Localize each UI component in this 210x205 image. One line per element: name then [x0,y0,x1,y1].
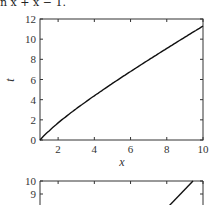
y-axis-ticks: 024681012 [25,13,203,146]
y-tick-label: 12 [25,13,36,25]
y-tick-label: 8 [31,53,37,65]
x-axis-label: x [118,155,125,169]
x-tick-label: 6 [128,143,134,155]
y-tick-label: 2 [31,114,37,126]
x-tick-label: 2 [55,143,61,155]
y-tick-label: 9 [31,188,37,200]
data-line [40,26,203,140]
top-chart: 246810 024681012 x t [3,13,209,169]
x-tick-label: 4 [92,143,98,155]
x-axis-ticks: 246810 [55,19,209,155]
y-tick-label: 6 [31,74,37,86]
plot-frame [40,19,203,140]
x-tick-label: 10 [198,143,210,155]
y-axis-label: t [3,78,17,82]
x-tick-label: 8 [164,143,170,155]
y-tick-label: 4 [31,94,37,106]
bottom-data-line [168,181,193,205]
y-tick-label: 10 [25,33,37,45]
bottom-chart-ticks: 109 [25,175,203,200]
y-tick-label: 0 [31,134,37,146]
y-tick-label: 10 [25,175,37,187]
bottom-chart: 109 [25,175,203,205]
charts: 246810 024681012 x t 109 [0,0,210,205]
